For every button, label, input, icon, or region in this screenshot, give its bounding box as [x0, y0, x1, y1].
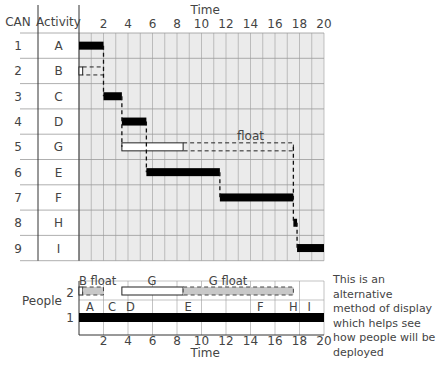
x-tick-label: 6: [149, 17, 157, 31]
people-level2-label: G float: [209, 274, 248, 288]
row-can-4: 4: [14, 115, 22, 129]
people-x-tick-label: 12: [218, 334, 233, 348]
row-can-1: 1: [14, 39, 22, 53]
bar-I: [297, 244, 324, 252]
people-level2-box: [79, 287, 83, 295]
x-tick-label: 12: [218, 17, 233, 31]
x-axis-title: Time: [189, 3, 219, 17]
x-tick-label: 8: [173, 17, 181, 31]
header-can: CAN: [5, 15, 31, 29]
people-level2-float: [83, 287, 104, 295]
bar-D: [122, 118, 147, 126]
people-activity-label-I: I: [308, 300, 311, 314]
row-can-8: 8: [14, 216, 22, 230]
bar-B: [79, 67, 83, 75]
people-y-tick-1: 1: [66, 311, 74, 325]
people-level2-label: B float: [79, 274, 117, 288]
explanation-note: This is an alternative method of display…: [333, 273, 437, 360]
row-can-6: 6: [14, 166, 22, 180]
row-can-7: 7: [14, 191, 22, 205]
people-x-tick-label: 14: [243, 334, 258, 348]
people-activity-label-A: A: [86, 300, 94, 314]
people-x-tick-label: 2: [100, 334, 108, 348]
people-level2-box: [122, 287, 183, 295]
row-activity-F: F: [55, 191, 62, 205]
people-x-tick-label: 18: [292, 334, 307, 348]
row-activity-C: C: [54, 90, 62, 104]
row-can-5: 5: [14, 140, 22, 154]
people-x-tick-label: 8: [173, 334, 181, 348]
people-x-tick-label: 16: [267, 334, 282, 348]
x-tick-label: 4: [124, 17, 132, 31]
bar-F: [220, 193, 294, 201]
row-can-3: 3: [14, 90, 22, 104]
bar-G: [122, 143, 183, 151]
people-x-tick-label: 4: [124, 334, 132, 348]
row-activity-I: I: [57, 242, 61, 256]
people-y-label: People: [22, 294, 62, 308]
people-activity-label-C: C: [108, 300, 116, 314]
row-can-9: 9: [14, 242, 22, 256]
people-x-axis-title: Time: [189, 346, 219, 360]
float-label: float: [237, 129, 264, 143]
bar-A: [79, 42, 104, 50]
people-y-tick-2: 2: [66, 286, 74, 300]
bar-E: [146, 168, 220, 176]
people-x-tick-label: 20: [316, 334, 331, 348]
people-activity-label-F: F: [257, 300, 264, 314]
bar-C: [104, 92, 122, 100]
people-activity-label-E: E: [184, 300, 191, 314]
people-x-tick-label: 6: [149, 334, 157, 348]
row-activity-H: H: [54, 216, 63, 230]
row-activity-D: D: [54, 115, 63, 129]
people-level1-bar: [79, 313, 324, 322]
x-tick-label: 10: [194, 17, 209, 31]
row-activity-B: B: [54, 64, 62, 78]
people-level2-float: [183, 287, 293, 295]
row-activity-A: A: [54, 39, 63, 53]
people-level2-label: G: [148, 274, 157, 288]
row-activity-E: E: [55, 166, 63, 180]
x-tick-label: 2: [100, 17, 108, 31]
x-tick-label: 20: [316, 17, 331, 31]
row-activity-G: G: [54, 140, 63, 154]
header-activity: Activity: [36, 15, 81, 29]
x-tick-label: 14: [243, 17, 258, 31]
people-activity-label-D: D: [126, 300, 135, 314]
x-tick-label: 18: [292, 17, 307, 31]
x-tick-label: 16: [267, 17, 282, 31]
row-can-2: 2: [14, 64, 22, 78]
people-activity-label-H: H: [289, 300, 298, 314]
